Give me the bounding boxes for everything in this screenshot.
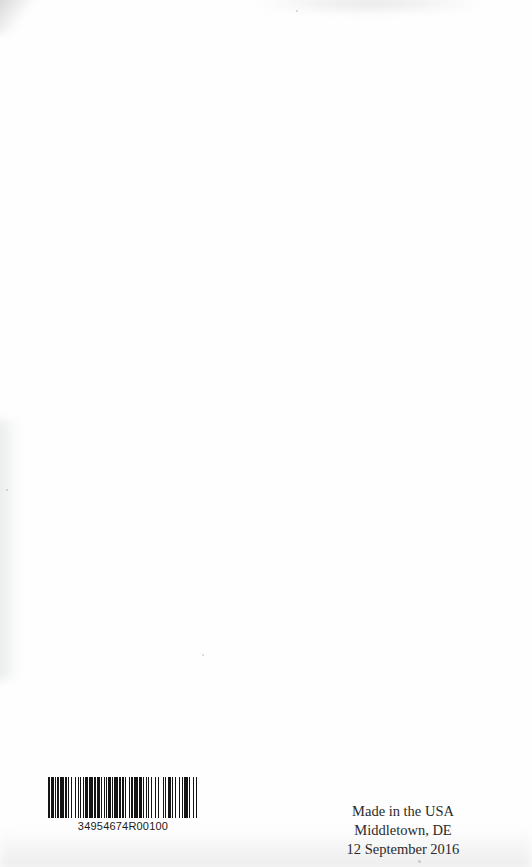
scan-speck [6,489,8,491]
imprint-line-made-in: Made in the USA [330,802,476,821]
imprint-line-date: 12 September 2016 [330,840,476,859]
scan-smudge-left-edge [0,420,20,680]
scan-smudge-top-left [0,0,50,37]
book-back-cover-page: 34954674R00100 Made in the USA Middletow… [0,0,532,867]
barcode-bars [48,777,198,818]
scan-speck [418,860,421,863]
barcode-bar [196,777,197,818]
barcode-number: 34954674R00100 [48,820,198,832]
imprint-block: Made in the USA Middletown, DE 12 Septem… [330,802,476,859]
scan-smudge-top [250,0,490,14]
imprint-line-city: Middletown, DE [330,821,476,840]
scan-speck [296,10,298,12]
barcode: 34954674R00100 [48,777,198,832]
scan-speck [202,654,204,656]
